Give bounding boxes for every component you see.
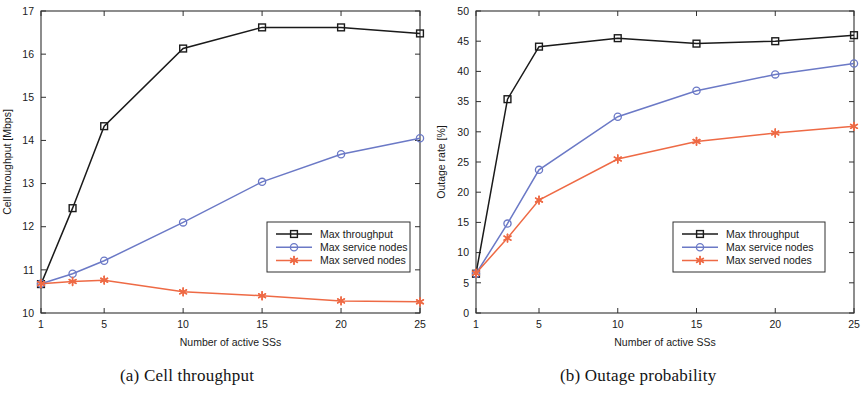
x-axis-title: Number of active SSs (180, 336, 282, 348)
y-tick-label: 13 (22, 177, 34, 189)
y-tick-label: 17 (22, 5, 34, 17)
x-tick-label: 15 (691, 318, 703, 330)
y-tick-label: 50 (457, 5, 469, 17)
x-axis: 1510152025 (38, 11, 426, 330)
x-tick-label: 10 (612, 318, 624, 330)
x-tick-label: 15 (256, 318, 268, 330)
y-tick-label: 14 (22, 134, 34, 146)
chart-panel-outage-probability: 151015202505101520253035404550Number of … (434, 0, 868, 350)
y-tick-label: 20 (457, 186, 469, 198)
x-axis-title: Number of active SSs (614, 336, 716, 348)
y-tick-label: 35 (457, 95, 469, 107)
series-3 (38, 276, 424, 305)
legend-item-label: Max service nodes (726, 241, 814, 253)
y-tick-label: 0 (463, 307, 469, 319)
caption-cell-throughput: (a) Cell throughput (120, 366, 254, 386)
x-tick-label: 20 (335, 318, 347, 330)
legend-item-label: Max served nodes (726, 254, 812, 266)
chart-legend: Max throughputMax service nodesMax serve… (673, 222, 825, 272)
y-tick-label: 15 (457, 216, 469, 228)
y-axis-title: Outage rate [%] (435, 125, 447, 199)
outage-probability-plot: 151015202505101520253035404550Number of … (434, 0, 868, 350)
y-tick-label: 10 (22, 307, 34, 319)
y-tick-label: 12 (22, 220, 34, 232)
chart-panel-cell-throughput: 15101520251011121314151617Number of acti… (0, 0, 434, 350)
x-tick-label: 5 (101, 318, 107, 330)
y-axis-title: Cell throughput [Mbps] (1, 109, 13, 215)
y-tick-label: 5 (463, 277, 469, 289)
x-tick-label: 1 (473, 318, 479, 330)
legend-item-label: Max served nodes (320, 254, 406, 266)
x-tick-label: 5 (536, 318, 542, 330)
legend-item-label: Max throughput (726, 228, 799, 240)
y-tick-label: 25 (457, 156, 469, 168)
x-tick-label: 25 (414, 318, 426, 330)
y-tick-label: 30 (457, 126, 469, 138)
x-tick-label: 10 (177, 318, 189, 330)
y-tick-label: 40 (457, 65, 469, 77)
cell-throughput-plot: 15101520251011121314151617Number of acti… (0, 0, 434, 350)
figure-container: 15101520251011121314151617Number of acti… (0, 0, 868, 397)
x-tick-label: 25 (848, 318, 860, 330)
caption-row: (a) Cell throughput (b) Outage probabili… (0, 352, 868, 397)
x-tick-label: 20 (769, 318, 781, 330)
y-tick-label: 11 (23, 264, 34, 276)
chart-legend: Max throughputMax service nodesMax serve… (267, 222, 410, 272)
caption-outage-probability: (b) Outage probability (560, 366, 716, 386)
y-tick-label: 15 (22, 91, 34, 103)
y-tick-label: 10 (457, 246, 469, 258)
legend-item-label: Max throughput (320, 228, 393, 240)
y-tick-label: 45 (457, 35, 469, 47)
series-line (41, 280, 420, 302)
y-tick-label: 16 (22, 48, 34, 60)
legend-item-label: Max service nodes (320, 241, 408, 253)
x-tick-label: 1 (38, 318, 44, 330)
